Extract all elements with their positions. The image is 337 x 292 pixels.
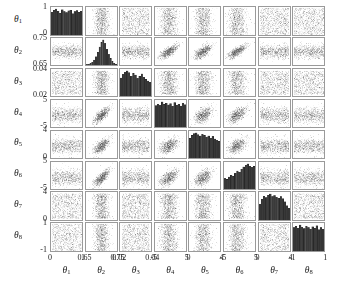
axis-label-y-theta7: θ7 bbox=[2, 200, 22, 210]
axis-label-x-theta2: θ2 bbox=[89, 266, 113, 276]
y-tick-top-theta8: 1 bbox=[20, 219, 47, 227]
scatter-panel-theta7-vs-theta8 bbox=[292, 191, 325, 221]
scatter-panel-theta5-vs-theta3 bbox=[119, 130, 152, 160]
diagonal-histogram-theta2 bbox=[85, 37, 118, 67]
scatter-panel-theta2-vs-theta6 bbox=[223, 37, 256, 67]
scatter-panel-theta1-vs-theta2 bbox=[85, 6, 118, 36]
scatter-panel-theta7-vs-theta1 bbox=[50, 191, 83, 221]
scatter-panel-theta2-vs-theta4 bbox=[154, 37, 187, 67]
scatter-panel-theta5-vs-theta4 bbox=[154, 130, 187, 160]
y-tick-top-theta2: 0.75 bbox=[20, 34, 47, 42]
x-tick-left-theta2: 0.65 bbox=[76, 254, 94, 262]
scatter-panel-theta1-vs-theta3 bbox=[119, 6, 152, 36]
scatter-panel-theta1-vs-theta6 bbox=[223, 6, 256, 36]
scatter-panel-theta1-vs-theta5 bbox=[188, 6, 221, 36]
diagonal-histogram-theta1 bbox=[50, 6, 83, 36]
scatter-panel-theta8-vs-theta6 bbox=[223, 222, 256, 252]
axis-label-x-theta6: θ6 bbox=[228, 266, 252, 276]
diagonal-histogram-theta5 bbox=[188, 130, 221, 160]
x-tick-left-theta4: -5 bbox=[145, 254, 163, 262]
scatter-panel-theta3-vs-theta4 bbox=[154, 68, 187, 98]
axis-label-x-theta8: θ8 bbox=[297, 266, 321, 276]
y-tick-top-theta1: 1 bbox=[20, 3, 47, 11]
scatter-panel-theta8-vs-theta1 bbox=[50, 222, 83, 252]
scatter-panel-theta4-vs-theta2 bbox=[85, 99, 118, 129]
axis-label-x-theta3: θ3 bbox=[124, 266, 148, 276]
axis-label-y-theta3: θ3 bbox=[2, 77, 22, 87]
y-tick-top-theta4: 5 bbox=[20, 96, 47, 104]
scatter-panel-theta3-vs-theta6 bbox=[223, 68, 256, 98]
scatter-panel-theta4-vs-theta7 bbox=[258, 99, 291, 129]
scatter-panel-theta6-vs-theta8 bbox=[292, 161, 325, 191]
scatter-panel-theta6-vs-theta7 bbox=[258, 161, 291, 191]
y-tick-top-theta5: 4 bbox=[20, 126, 47, 134]
scatter-panel-theta2-vs-theta1 bbox=[50, 37, 83, 67]
corner-plot-figure: θ110θ20.750.65θ30.040.02θ45-5θ540θ65-5θ7… bbox=[0, 0, 337, 292]
scatter-panel-theta8-vs-theta7 bbox=[258, 222, 291, 252]
scatter-panel-theta3-vs-theta1 bbox=[50, 68, 83, 98]
scatter-panel-theta2-vs-theta5 bbox=[188, 37, 221, 67]
scatter-panel-theta5-vs-theta2 bbox=[85, 130, 118, 160]
scatter-panel-theta2-vs-theta3 bbox=[119, 37, 152, 67]
scatter-panel-theta4-vs-theta6 bbox=[223, 99, 256, 129]
scatter-panel-theta6-vs-theta3 bbox=[119, 161, 152, 191]
scatter-panel-theta3-vs-theta8 bbox=[292, 68, 325, 98]
scatter-panel-theta7-vs-theta3 bbox=[119, 191, 152, 221]
scatter-panel-theta7-vs-theta4 bbox=[154, 191, 187, 221]
scatter-panel-theta5-vs-theta7 bbox=[258, 130, 291, 160]
scatter-panel-theta1-vs-theta7 bbox=[258, 6, 291, 36]
diagonal-histogram-theta7 bbox=[258, 191, 291, 221]
scatter-panel-theta8-vs-theta2 bbox=[85, 222, 118, 252]
x-tick-left-theta3: 0.02 bbox=[110, 254, 128, 262]
y-tick-top-theta7: 4 bbox=[20, 188, 47, 196]
scatter-panel-theta6-vs-theta1 bbox=[50, 161, 83, 191]
diagonal-histogram-theta4 bbox=[154, 99, 187, 129]
axis-label-x-theta4: θ4 bbox=[158, 266, 182, 276]
x-tick-left-theta5: 0 bbox=[179, 254, 197, 262]
axis-label-x-theta1: θ1 bbox=[55, 266, 79, 276]
x-tick-right-theta8: 1 bbox=[316, 254, 334, 262]
axis-label-y-theta8: θ8 bbox=[2, 231, 22, 241]
scatter-panel-theta6-vs-theta2 bbox=[85, 161, 118, 191]
axis-label-x-theta5: θ5 bbox=[193, 266, 217, 276]
axis-label-y-theta6: θ6 bbox=[2, 169, 22, 179]
diagonal-histogram-theta6 bbox=[223, 161, 256, 191]
scatter-panel-theta7-vs-theta5 bbox=[188, 191, 221, 221]
scatter-panel-theta4-vs-theta5 bbox=[188, 99, 221, 129]
scatter-panel-theta3-vs-theta5 bbox=[188, 68, 221, 98]
scatter-panel-theta4-vs-theta8 bbox=[292, 99, 325, 129]
scatter-panel-theta5-vs-theta1 bbox=[50, 130, 83, 160]
scatter-panel-theta6-vs-theta5 bbox=[188, 161, 221, 191]
x-tick-left-theta8: -1 bbox=[283, 254, 301, 262]
axis-label-y-theta4: θ4 bbox=[2, 108, 22, 118]
x-tick-left-theta6: -5 bbox=[214, 254, 232, 262]
x-tick-left-theta7: 0 bbox=[249, 254, 267, 262]
scatter-panel-theta2-vs-theta8 bbox=[292, 37, 325, 67]
y-tick-top-theta3: 0.04 bbox=[20, 65, 47, 73]
diagonal-histogram-theta3 bbox=[119, 68, 152, 98]
x-tick-left-theta1: 0 bbox=[41, 254, 59, 262]
scatter-panel-theta8-vs-theta3 bbox=[119, 222, 152, 252]
axis-label-y-theta5: θ5 bbox=[2, 138, 22, 148]
scatter-panel-theta5-vs-theta8 bbox=[292, 130, 325, 160]
diagonal-histogram-theta8 bbox=[292, 222, 325, 252]
axis-label-y-theta1: θ1 bbox=[2, 15, 22, 25]
scatter-panel-theta7-vs-theta6 bbox=[223, 191, 256, 221]
scatter-panel-theta2-vs-theta7 bbox=[258, 37, 291, 67]
scatter-panel-theta5-vs-theta6 bbox=[223, 130, 256, 160]
scatter-panel-theta8-vs-theta5 bbox=[188, 222, 221, 252]
y-tick-top-theta6: 5 bbox=[20, 157, 47, 165]
scatter-panel-theta1-vs-theta8 bbox=[292, 6, 325, 36]
scatter-panel-theta3-vs-theta2 bbox=[85, 68, 118, 98]
axis-label-y-theta2: θ2 bbox=[2, 46, 22, 56]
scatter-panel-theta4-vs-theta1 bbox=[50, 99, 83, 129]
scatter-panel-theta6-vs-theta4 bbox=[154, 161, 187, 191]
y-tick-bottom-theta8: -1 bbox=[20, 246, 47, 254]
scatter-panel-theta7-vs-theta2 bbox=[85, 191, 118, 221]
scatter-panel-theta4-vs-theta3 bbox=[119, 99, 152, 129]
scatter-panel-theta3-vs-theta7 bbox=[258, 68, 291, 98]
scatter-panel-theta8-vs-theta4 bbox=[154, 222, 187, 252]
axis-label-x-theta7: θ7 bbox=[262, 266, 286, 276]
scatter-panel-theta1-vs-theta4 bbox=[154, 6, 187, 36]
